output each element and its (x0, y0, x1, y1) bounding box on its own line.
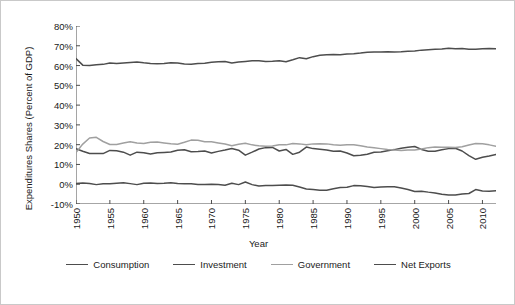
chart-legend: ConsumptionInvestmentGovernmentNet Expor… (1, 259, 515, 270)
figure-frame: Expenditures Shares (Percent of GDP) 80%… (0, 0, 515, 305)
y-tick-label: 60% (54, 60, 73, 71)
x-tick-label: 1960 (138, 208, 149, 229)
y-tick-marks (76, 26, 80, 204)
legend-item[interactable]: Investment (173, 259, 246, 270)
x-tick-label: 2000 (409, 208, 420, 229)
y-tick-label: 30% (54, 119, 73, 130)
legend-label: Net Exports (401, 259, 451, 270)
x-tick-label: 1955 (104, 208, 115, 229)
legend-label: Consumption (93, 259, 149, 270)
legend-item[interactable]: Government (271, 259, 350, 270)
x-tick-label: 1980 (274, 208, 285, 229)
legend-label: Investment (200, 259, 246, 270)
series-line (76, 48, 496, 65)
x-tick-label: 1965 (172, 208, 183, 229)
data-series-group (76, 48, 496, 195)
x-tick-label: 1995 (375, 208, 386, 229)
x-tick-marks (76, 200, 482, 204)
y-tick-label: 80% (54, 21, 73, 32)
y-tick-label: 70% (54, 40, 73, 51)
plot-area (76, 26, 496, 204)
series-canvas (76, 26, 496, 204)
x-axis-title: Year (1, 238, 515, 249)
x-tick-label: 1950 (71, 208, 82, 229)
legend-line-swatch (173, 264, 195, 265)
y-tick-label: 40% (54, 100, 73, 111)
series-line (76, 146, 496, 159)
y-tick-label: 50% (54, 80, 73, 91)
series-line (76, 182, 496, 195)
y-tick-label: 20% (54, 139, 73, 150)
x-tick-label: 1975 (240, 208, 251, 229)
x-tick-label: 1985 (308, 208, 319, 229)
x-axis-tick-labels: 1950195519601965197019751980198519901995… (76, 208, 496, 238)
x-tick-label: 2005 (443, 208, 454, 229)
legend-item[interactable]: Net Exports (374, 259, 451, 270)
y-tick-label: 0% (59, 179, 73, 190)
y-tick-label: 10% (54, 159, 73, 170)
x-tick-label: 2010 (477, 208, 488, 229)
x-tick-label: 1970 (206, 208, 217, 229)
legend-item[interactable]: Consumption (66, 259, 149, 270)
y-axis-tick-labels: 80%70%60%50%40%30%20%10%0%-10% (29, 26, 73, 204)
axis-lines (76, 26, 496, 204)
legend-line-swatch (271, 264, 293, 265)
legend-label: Government (298, 259, 350, 270)
legend-line-swatch (66, 264, 88, 265)
legend-line-swatch (374, 264, 396, 265)
chart-figure: Expenditures Shares (Percent of GDP) 80%… (1, 1, 515, 305)
x-tick-label: 1990 (341, 208, 352, 229)
